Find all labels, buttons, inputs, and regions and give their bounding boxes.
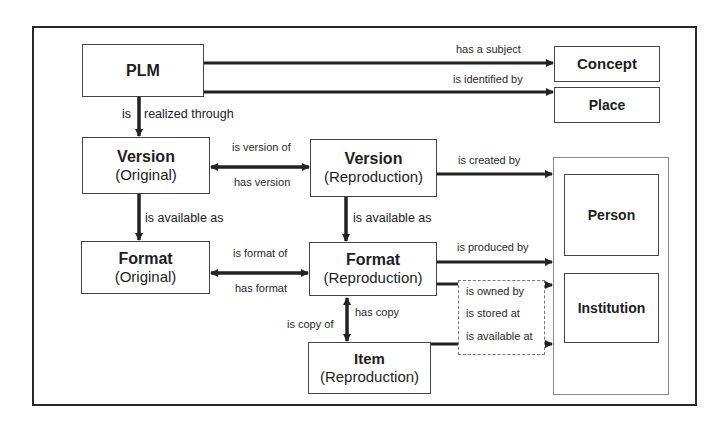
node-format-reproduction-subtitle: (Reproduction) xyxy=(323,269,422,287)
node-institution[interactable]: Institution xyxy=(564,273,659,343)
node-version-original-title: Version xyxy=(117,148,175,166)
node-concept-title: Concept xyxy=(577,55,637,73)
edge-label-is-identified-by: is identified by xyxy=(453,73,523,85)
node-version-original[interactable]: Version (Original) xyxy=(82,137,210,194)
node-format-original-title: Format xyxy=(118,250,172,268)
node-format-original[interactable]: Format (Original) xyxy=(81,241,210,294)
node-item-reproduction[interactable]: Item (Reproduction) xyxy=(308,342,431,394)
edge-label-is-available-as-reproduction: is available as xyxy=(353,211,432,225)
edge-label-is-created-by: is created by xyxy=(458,154,520,166)
node-place[interactable]: Place xyxy=(554,87,660,123)
edge-label-is-format-of: is format of xyxy=(233,247,287,259)
edge-label-has-version: has version xyxy=(234,176,290,188)
edge-label-has-format: has format xyxy=(235,282,287,294)
node-plm[interactable]: PLM xyxy=(82,44,204,97)
node-institution-title: Institution xyxy=(578,299,646,317)
node-person[interactable]: Person xyxy=(564,174,659,256)
edge-label-is-available-at: is available at xyxy=(466,330,533,342)
node-plm-title: PLM xyxy=(126,62,160,80)
node-item-reproduction-title: Item xyxy=(354,350,385,368)
edge-label-is-produced-by: is produced by xyxy=(457,241,529,253)
edge-label-has-a-subject: has a subject xyxy=(456,43,521,55)
edge-label-is: is xyxy=(122,107,131,121)
node-version-reproduction[interactable]: Version (Reproduction) xyxy=(310,139,437,197)
node-person-title: Person xyxy=(588,206,635,224)
node-format-reproduction[interactable]: Format (Reproduction) xyxy=(309,242,437,296)
node-format-reproduction-title: Format xyxy=(346,251,400,269)
node-concept[interactable]: Concept xyxy=(554,46,660,82)
edge-label-is-copy-of: is copy of xyxy=(287,318,333,330)
node-version-reproduction-title: Version xyxy=(345,150,403,168)
node-format-original-subtitle: (Original) xyxy=(115,268,177,286)
edge-label-is-owned-by: is owned by xyxy=(466,285,524,297)
edge-label-is-version-of: is version of xyxy=(232,141,291,153)
node-item-reproduction-subtitle: (Reproduction) xyxy=(320,368,419,386)
edge-label-is-available-as-original: is available as xyxy=(145,211,224,225)
edge-label-realized-through: realized through xyxy=(144,107,234,121)
edge-label-has-copy: has copy xyxy=(355,306,399,318)
node-version-reproduction-subtitle: (Reproduction) xyxy=(324,168,423,186)
edge-label-is-stored-at: is stored at xyxy=(466,307,520,319)
node-place-title: Place xyxy=(589,96,626,114)
node-version-original-subtitle: (Original) xyxy=(115,166,177,184)
